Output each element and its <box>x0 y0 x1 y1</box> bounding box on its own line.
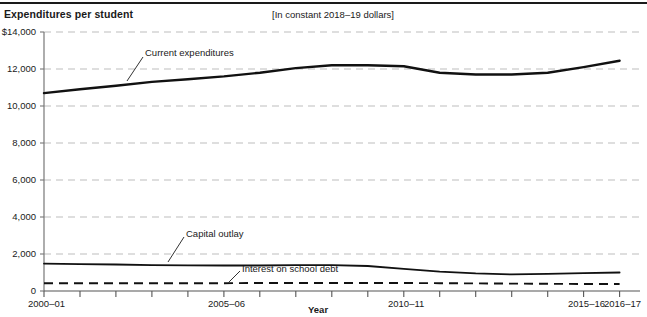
chart-page: Expenditures per student [In constant 20… <box>0 0 647 317</box>
leader-line-capital-outlay <box>168 237 184 262</box>
y-tick-label-4000: 4,000 <box>0 211 36 222</box>
series-label-current-expenditures: Current expenditures <box>145 47 234 58</box>
leader-line-interest-on-school-debt <box>228 271 240 283</box>
y-tick-label-12000: 12,000 <box>0 63 36 74</box>
x-tick-label-2005-06: 2005–06 <box>208 298 245 309</box>
x-tick-label-2010-11: 2010–11 <box>388 298 424 309</box>
series-line-current-expenditures <box>44 61 620 93</box>
series-label-interest-on-school-debt: Interest on school debt <box>242 263 338 274</box>
y-tick-label-6000: 6,000 <box>0 174 36 185</box>
annotation-leader-lines <box>127 57 240 283</box>
y-tick-label-14000: $14,000 <box>0 26 36 37</box>
y-tick-label-8000: 8,000 <box>0 137 36 148</box>
series-label-capital-outlay: Capital outlay <box>186 228 244 239</box>
x-axis-ticks <box>44 291 620 297</box>
x-tick-label-2000-01: 2000–01 <box>28 298 65 309</box>
x-tick-label-2015-16: 2015–16 <box>568 298 605 309</box>
y-tick-label-0: 0 <box>0 285 36 296</box>
y-tick-label-10000: 10,000 <box>0 100 36 111</box>
x-tick-label-2016-17: 2016–17 <box>604 298 641 309</box>
x-axis-title: Year <box>308 304 328 315</box>
series-line-interest-on-school-debt <box>44 283 620 284</box>
y-tick-label-2000: 2,000 <box>0 248 36 259</box>
